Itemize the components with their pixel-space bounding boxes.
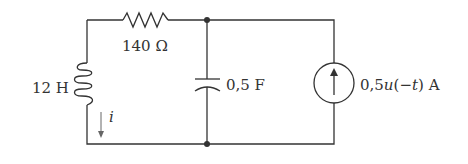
- current-source-label: 0,5u(−t) A: [360, 76, 440, 94]
- resistor-label: 140 Ω: [122, 37, 168, 55]
- inductor-label: 12 H: [32, 79, 69, 97]
- current-source-arrowhead-icon: [330, 68, 338, 76]
- node-top: [204, 17, 210, 23]
- current-label: i: [109, 108, 114, 126]
- resistor: [123, 13, 168, 27]
- wire-top-right: [168, 20, 334, 63]
- circuit-diagram: 140 Ω 12 H 0,5 F 0,5u(−t) A i: [0, 0, 468, 164]
- inductor: [75, 63, 93, 105]
- current-arrowhead-icon: [98, 131, 104, 138]
- capacitor-label: 0,5 F: [226, 76, 265, 94]
- node-bottom: [204, 141, 210, 147]
- wire-left-lower: [87, 103, 334, 144]
